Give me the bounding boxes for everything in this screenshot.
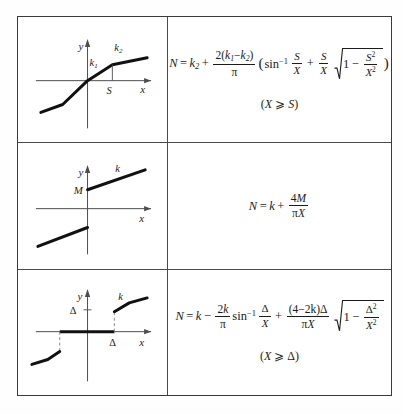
- formula-k-term: k: [196, 310, 202, 323]
- open-paren: (: [258, 56, 263, 71]
- formula-N: N: [175, 310, 183, 323]
- formula-equals: =: [180, 57, 187, 70]
- fraction-denominator: π: [218, 317, 228, 330]
- fraction-S-over-X-2: S X: [318, 51, 329, 77]
- describing-function-formula-1: N = k2 + 2(k1−k2) π ( sin−1 S X +: [169, 48, 390, 80]
- fraction-S2-over-X2: S2 X2: [363, 51, 377, 79]
- formula-equals: =: [186, 310, 193, 323]
- breakpoint-label-S: S: [106, 85, 112, 96]
- nonlinearity-graph-cell-2: y x k M: [18, 143, 168, 268]
- fraction-2k-over-pi: 2k π: [215, 303, 230, 330]
- validity-condition-3: (X ⩾ Δ): [260, 349, 299, 364]
- x-axis-arrowhead: [144, 78, 151, 83]
- dead-zone-graph-svg: y x k Δ Δ: [18, 270, 167, 395]
- x-axis-label: x: [138, 335, 144, 347]
- describing-function-formula-3: N = k − 2k π sin−1 Δ X + (4−2k: [175, 300, 383, 332]
- formula-plus: +: [202, 57, 209, 70]
- fraction-delta-over-X: Δ X: [259, 303, 270, 329]
- fraction-denominator: πX: [290, 206, 307, 219]
- lower-sloped-branch: [32, 351, 60, 364]
- inner-plus: +: [307, 57, 314, 70]
- slope-label-k1: k1: [90, 57, 98, 70]
- table-row: y x k M N = k + 4M πX: [18, 143, 391, 269]
- formula-cell-1: N = k2 + 2(k1−k2) π ( sin−1 S X +: [168, 17, 391, 142]
- formula-cell-2: N = k + 4M πX: [168, 143, 391, 268]
- table-row: y x k Δ Δ N = k − 2k π sin−1: [18, 270, 391, 395]
- fraction-4M-over-piX: 4M πX: [289, 192, 308, 219]
- slope-label-k: k: [118, 291, 123, 302]
- y-axis-arrowhead: [85, 165, 90, 173]
- nonlinearity-graph-cell-3: y x k Δ Δ: [18, 270, 168, 395]
- lower-branch-line: [38, 228, 88, 247]
- formula-plus: +: [275, 310, 282, 323]
- close-paren: ): [384, 56, 389, 71]
- fraction-numerator: 2k: [215, 303, 230, 317]
- formula-plus: +: [277, 200, 284, 213]
- x-axis-arrowhead: [144, 329, 151, 334]
- y-axis-label: y: [78, 166, 84, 178]
- y-axis-label: y: [78, 40, 84, 52]
- nonlinearity-table: y x k1 k2 S N = k2 + 2(k1−k2) π: [17, 16, 392, 396]
- formula-N: N: [249, 200, 257, 213]
- radicand: 1 − Δ2 X2: [342, 300, 383, 332]
- formula-minus: −: [204, 310, 211, 323]
- y-axis-arrowhead: [85, 39, 90, 47]
- y-axis-label: y: [77, 290, 83, 302]
- y-tick-label-delta: Δ: [70, 304, 77, 315]
- formula-cell-3: N = k − 2k π sin−1 Δ X + (4−2k: [168, 270, 391, 395]
- x-axis-label: x: [139, 83, 145, 95]
- slope-label-k2: k2: [114, 42, 123, 55]
- validity-condition-1: (X ⩾ S): [261, 97, 298, 112]
- nonlinearity-graph-cell-1: y x k1 k2 S: [18, 17, 168, 142]
- y-axis-arrowhead: [85, 289, 90, 297]
- arcsin-operator: sin−1: [264, 57, 288, 71]
- page-root: y x k1 k2 S N = k2 + 2(k1−k2) π: [0, 0, 405, 414]
- describing-function-formula-2: N = k + 4M πX: [249, 192, 310, 219]
- square-root-expression: 1 − S2 X2: [334, 48, 383, 80]
- offset-label-M: M: [73, 184, 84, 196]
- fraction-4minus2k-delta-over-piX: (4−2k)Δ πX: [287, 303, 330, 330]
- formula-N: N: [169, 57, 177, 70]
- formula-equals: =: [260, 200, 267, 213]
- slope-label-k: k: [115, 163, 120, 174]
- saturation-graph-svg: y x k1 k2 S: [18, 17, 167, 142]
- fraction-numerator: (4−2k)Δ: [287, 303, 330, 317]
- fraction-2k1-minus-k2-over-pi: 2(k1−k2) π: [213, 49, 255, 78]
- formula-k2-term: k2: [190, 57, 200, 71]
- fraction-numerator: 4M: [289, 192, 308, 206]
- table-row: y x k1 k2 S N = k2 + 2(k1−k2) π: [18, 17, 391, 143]
- fraction-denominator: π: [230, 65, 240, 78]
- x-axis-arrowhead: [144, 206, 151, 211]
- fraction-delta2-over-X2: Δ2 X2: [364, 303, 379, 331]
- arcsin-operator: sin−1: [232, 309, 256, 323]
- x-axis-label: x: [138, 212, 144, 224]
- fraction-numerator: 2(k1−k2): [213, 49, 255, 65]
- x-tick-label-delta: Δ: [109, 336, 116, 347]
- coulomb-friction-graph-svg: y x k M: [18, 143, 167, 268]
- square-root-expression: 1 − Δ2 X2: [334, 300, 383, 332]
- formula-k-term: k: [269, 200, 275, 213]
- fraction-S-over-X: S X: [292, 51, 303, 77]
- radicand: 1 − S2 X2: [342, 48, 383, 80]
- fraction-denominator: πX: [300, 317, 317, 330]
